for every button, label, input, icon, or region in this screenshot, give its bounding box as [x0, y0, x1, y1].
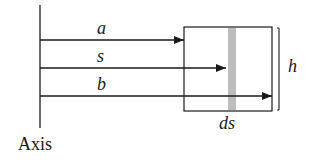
label-s: s — [97, 47, 104, 65]
label-b: b — [97, 75, 106, 93]
label-h: h — [288, 57, 297, 75]
strip-ds — [228, 28, 236, 110]
diagram-canvas: a s b h ds Axis — [0, 0, 314, 161]
label-a: a — [97, 19, 106, 37]
label-ds: ds — [219, 114, 235, 132]
label-axis: Axis — [18, 135, 52, 153]
